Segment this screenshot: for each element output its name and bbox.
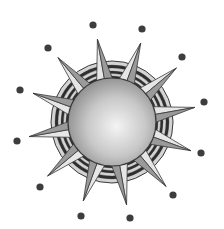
decorative-dot (77, 212, 84, 219)
decorative-dot (200, 98, 207, 105)
sun-sphere (68, 78, 156, 166)
decorative-dot (138, 25, 145, 32)
decorative-dot (89, 21, 96, 28)
sun-illustration (0, 0, 224, 229)
decorative-dot (16, 86, 23, 93)
decorative-dot (36, 183, 43, 190)
decorative-dot (126, 214, 133, 221)
decorative-dot (197, 149, 204, 156)
decorative-dot (13, 137, 20, 144)
decorative-dot (178, 53, 185, 60)
decorative-dot (44, 44, 51, 51)
decorative-dot (169, 191, 176, 198)
